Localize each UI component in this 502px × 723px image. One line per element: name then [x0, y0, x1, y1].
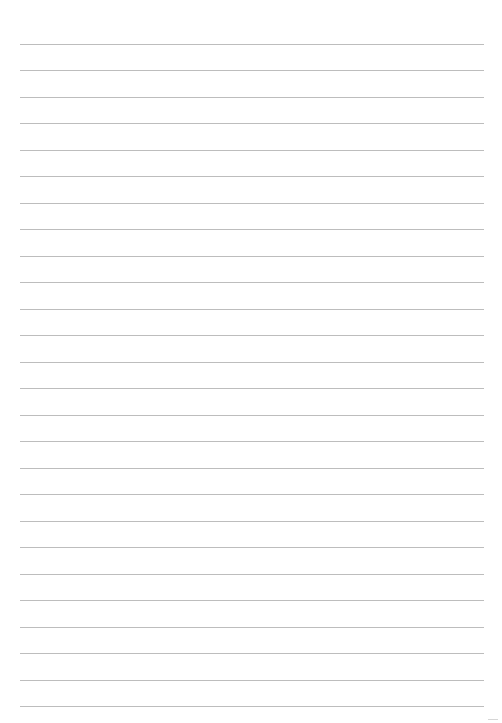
- ruled-line: [20, 680, 484, 681]
- ruled-line: [20, 309, 484, 310]
- ruled-line: [20, 335, 484, 336]
- ruled-line: [20, 627, 484, 628]
- ruled-line: [20, 44, 484, 45]
- ruled-line: [20, 229, 484, 230]
- ruled-line: [20, 468, 484, 469]
- lined-paper-sheet: [0, 0, 502, 723]
- ruled-line: [20, 547, 484, 548]
- ruled-line: [20, 574, 484, 575]
- ruled-line: [20, 282, 484, 283]
- ruled-line: [20, 600, 484, 601]
- ruled-line: [20, 653, 484, 654]
- ruled-line: [20, 494, 484, 495]
- ruled-line: [20, 97, 484, 98]
- ruled-line: [20, 150, 484, 151]
- ruled-line: [20, 521, 484, 522]
- ruled-line: [20, 441, 484, 442]
- corner-mark: [488, 719, 498, 720]
- ruled-line: [20, 176, 484, 177]
- ruled-line: [20, 256, 484, 257]
- ruled-line: [20, 70, 484, 71]
- ruled-line: [20, 203, 484, 204]
- ruled-line: [20, 123, 484, 124]
- ruled-line: [20, 388, 484, 389]
- ruled-line: [20, 362, 484, 363]
- ruled-line: [20, 415, 484, 416]
- ruled-line: [20, 706, 484, 707]
